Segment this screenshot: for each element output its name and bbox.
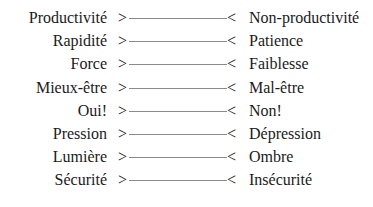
opposites-diagram: Productivité > < Non-productivité Rapidi…	[0, 6, 373, 192]
connector-line	[129, 18, 227, 19]
left-term: Lumière	[53, 145, 107, 168]
left-arrowhead-icon: <	[227, 52, 236, 75]
left-arrowhead-icon: <	[227, 29, 236, 52]
pair-row: Lumière > < Ombre	[0, 145, 373, 168]
left-arrowhead-icon: <	[227, 99, 236, 122]
left-arrowhead-icon: <	[227, 168, 236, 191]
left-term: Rapidité	[53, 29, 107, 52]
right-term: Dépression	[249, 122, 321, 145]
connector-line	[129, 111, 227, 112]
right-term: Non!	[249, 99, 282, 122]
connector-line	[129, 88, 227, 89]
right-arrowhead-icon: >	[118, 122, 127, 145]
left-term: Sécurité	[55, 168, 107, 191]
left-arrowhead-icon: <	[227, 76, 236, 99]
connector-line	[129, 41, 227, 42]
pair-row: Force > < Faiblesse	[0, 52, 373, 75]
right-term: Non-productivité	[249, 6, 359, 29]
left-term: Oui!	[78, 99, 107, 122]
right-term: Faiblesse	[249, 52, 309, 75]
right-arrowhead-icon: >	[118, 99, 127, 122]
pair-row: Sécurité > < Insécurité	[0, 168, 373, 191]
right-term: Mal-être	[249, 76, 304, 99]
left-term: Pression	[53, 122, 107, 145]
left-arrowhead-icon: <	[227, 6, 236, 29]
right-term: Insécurité	[249, 168, 312, 191]
connector-line	[129, 64, 227, 65]
right-arrowhead-icon: >	[118, 52, 127, 75]
connector-line	[129, 134, 227, 135]
right-term: Patience	[249, 29, 303, 52]
connector-line	[129, 157, 227, 158]
connector-line	[129, 180, 227, 181]
pair-row: Oui! > < Non!	[0, 99, 373, 122]
pair-row: Pression > < Dépression	[0, 122, 373, 145]
pair-row: Rapidité > < Patience	[0, 29, 373, 52]
right-arrowhead-icon: >	[118, 29, 127, 52]
left-arrowhead-icon: <	[227, 145, 236, 168]
right-arrowhead-icon: >	[118, 6, 127, 29]
left-arrowhead-icon: <	[227, 122, 236, 145]
right-arrowhead-icon: >	[118, 145, 127, 168]
left-term: Productivité	[29, 6, 107, 29]
left-term: Force	[71, 52, 107, 75]
right-arrowhead-icon: >	[118, 168, 127, 191]
left-term: Mieux-être	[36, 76, 107, 99]
pair-row: Productivité > < Non-productivité	[0, 6, 373, 29]
right-arrowhead-icon: >	[118, 76, 127, 99]
pair-row: Mieux-être > < Mal-être	[0, 76, 373, 99]
right-term: Ombre	[249, 145, 293, 168]
